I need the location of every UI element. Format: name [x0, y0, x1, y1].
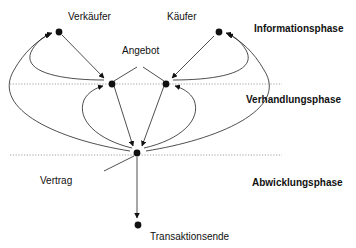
node-end	[135, 222, 142, 229]
offer-line-right	[143, 67, 164, 81]
label-offer: Angebot	[122, 45, 159, 56]
transaction-diagram	[0, 0, 356, 248]
edge-buyer-to-offer	[172, 36, 214, 78]
label-buyer: Käufer	[167, 11, 196, 22]
edge-offer-seller-to-contract	[114, 86, 133, 146]
edge-offer-buyer-to-contract	[142, 86, 164, 146]
node-buyer	[216, 29, 223, 36]
edge-contract-to-offer-seller	[82, 86, 132, 148]
node-seller	[56, 29, 63, 36]
edge-contract-to-seller	[9, 34, 130, 151]
node-offer-seller	[109, 81, 116, 88]
edge-contract-to-buyer	[146, 34, 269, 151]
edge-seller-to-offer	[62, 35, 104, 78]
label-contract: Vertrag	[40, 175, 72, 186]
edge-offer-to-buyer	[173, 33, 248, 80]
edge-contract-to-offer-buyer	[144, 86, 196, 148]
node-offer-buyer	[163, 81, 170, 88]
label-seller: Verkäufer	[68, 11, 111, 22]
phase-negotiation: Verhandlungsphase	[246, 94, 341, 105]
node-contract	[134, 150, 141, 157]
phase-settlement: Abwicklungsphase	[252, 177, 343, 188]
phase-information: Informationsphase	[254, 23, 343, 34]
contract-label-line	[104, 156, 134, 171]
label-end: Transaktionsende	[150, 231, 229, 242]
offer-line-left	[114, 67, 137, 81]
